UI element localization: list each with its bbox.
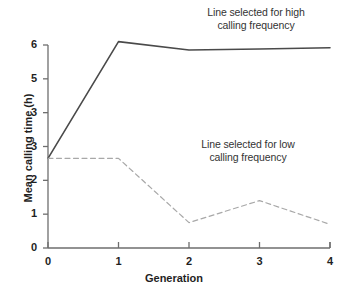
x-axis-tick-label: 2 [179,255,199,267]
y-axis-tick-label: 3 [17,106,37,118]
annotation-high-line1: Line selected for high [172,6,340,19]
x-axis-tick-label: 4 [320,255,340,267]
y-axis-tick-label: 3 [17,140,37,152]
annotation-low-line2: calling frequency [164,151,332,164]
y-axis-tick-label: 0 [17,241,37,253]
y-axis-tick-label: 1 [17,207,37,219]
x-axis-tick-label: 1 [109,255,129,267]
chart-figure: Line selected for high calling frequency… [0,0,348,301]
y-axis-tick-label: 2 [17,173,37,185]
annotation-high-frequency: Line selected for high calling frequency [172,6,340,32]
chart-series [48,42,330,225]
x-axis-title: Generation [0,272,348,284]
annotation-high-line2: calling frequency [172,19,340,32]
x-axis-tick-label: 3 [250,255,270,267]
x-axis-tick-label: 0 [38,255,58,267]
y-axis-tick-label: 5 [17,72,37,84]
annotation-low-line1: Line selected for low [164,138,332,151]
y-axis-tick-label: 6 [17,38,37,50]
annotation-low-frequency: Line selected for low calling frequency [164,138,332,164]
series-line-low-frequency [48,158,330,224]
